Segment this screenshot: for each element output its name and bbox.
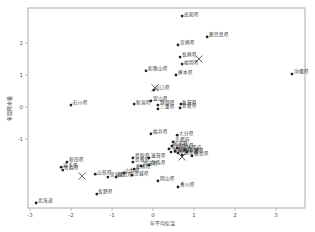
scatter-chart: -3-2-10123-1012 高知県鹿児島県宮崎県長崎県福岡県熊本県沖縄県和歌…: [0, 0, 315, 232]
data-point: 徳島県: [191, 150, 209, 157]
data-point: 香川県: [177, 181, 195, 188]
data-point: 福井県: [150, 128, 168, 135]
data-point: 青森県: [61, 164, 79, 171]
data-point: 高知県: [181, 11, 199, 18]
point-label: 長野県: [98, 188, 113, 195]
x-tick-label: -1: [109, 212, 114, 218]
data-point: 北海道: [35, 197, 53, 204]
data-point: 滋賀県: [148, 152, 166, 159]
point-label: 新潟県: [136, 99, 151, 106]
data-point: 沖縄県: [291, 68, 309, 75]
point-label: 青森県: [64, 164, 79, 171]
point-label: 和歌山県: [148, 65, 168, 72]
point-label: 滋賀県: [151, 152, 166, 159]
y-tick-label: 0: [20, 104, 24, 110]
plot-svg: -3-2-10123-1012 高知県鹿児島県宮崎県長崎県福岡県熊本県沖縄県和歌…: [0, 0, 315, 232]
point-label: 石川県: [73, 100, 88, 106]
x-tick-label: -3: [27, 212, 33, 218]
point-label: 山形県: [97, 169, 112, 176]
point-label: 香川県: [180, 181, 195, 188]
point-label: 福井県: [153, 128, 168, 135]
data-point: 愛媛県: [179, 102, 197, 109]
centroid-x-icon: [79, 173, 86, 180]
x-tick-label: -2: [68, 212, 73, 218]
point-label: 宮崎県: [180, 39, 195, 46]
x-tick-label: 0: [151, 212, 155, 218]
data-point: 山形県: [94, 169, 112, 176]
point-label: 高知県: [184, 11, 199, 18]
data-point: 鹿児島県: [206, 31, 229, 38]
point-label: 愛媛県: [182, 102, 197, 109]
y-axis-label: 年間降水量: [6, 96, 13, 121]
x-tick-label: 1: [192, 212, 196, 218]
y-tick-label: 2: [20, 40, 24, 46]
data-point: 熊本県: [175, 69, 193, 76]
point-label: 熊本県: [178, 69, 193, 76]
data-point: 三重県: [157, 103, 175, 110]
point-label: 鹿児島県: [209, 31, 229, 38]
data-points: 高知県鹿児島県宮崎県長崎県福岡県熊本県沖縄県和歌山県山口県富山県新潟県静岡県三重…: [35, 11, 309, 205]
data-point: 宮崎県: [177, 39, 195, 46]
data-point: 長崎県: [179, 51, 197, 58]
data-point: 石川県: [70, 100, 88, 106]
data-point: 長野県: [95, 188, 113, 195]
y-tick-label: 1: [20, 72, 24, 78]
data-point: 新潟県: [133, 99, 151, 106]
data-point: 大分県: [176, 130, 194, 137]
x-tick-label: 3: [274, 212, 278, 218]
x-axis-label: 年平均気温: [150, 220, 175, 227]
y-tick-label: -1: [18, 136, 23, 142]
point-label: 徳島県: [194, 150, 209, 157]
point-label: 北海道: [38, 197, 53, 204]
point-label: 岡山県: [160, 175, 175, 182]
data-point: 岡山県: [157, 175, 175, 182]
point-label: 沖縄県: [294, 68, 309, 75]
x-tick-label: 2: [233, 212, 237, 218]
point-label: 大分県: [179, 130, 194, 137]
point-label: 長崎県: [182, 51, 197, 58]
data-point: 和歌山県: [145, 65, 168, 72]
point-label: 三重県: [160, 103, 175, 110]
